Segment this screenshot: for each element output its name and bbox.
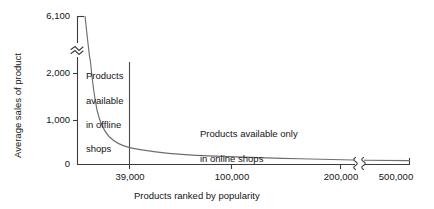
y-tick-label-6100: 6,100 (18, 10, 70, 22)
annotation-online-line-2: in online shops (200, 153, 298, 165)
annotation-offline-line-4: shops (86, 143, 124, 155)
y-tick-label-0: 0 (18, 158, 70, 170)
annotation-offline-line-2: available (86, 95, 124, 107)
x-tick-label-500000: 500,000 (358, 171, 434, 183)
long-tail-chart: 6,100 2,000 1,000 0 39,000 100,000 200,0… (0, 0, 434, 209)
annotation-online-line-1: Products available only (200, 128, 298, 140)
x-axis-title: Products ranked by popularity (134, 190, 260, 202)
x-axis-break-icon (354, 158, 366, 170)
y-tick-label-2000: 2,000 (18, 67, 70, 79)
annotation-offline-line-3: in offline (86, 119, 124, 131)
annotation-offline-shops: Products available in offline shops (86, 58, 124, 168)
annotation-online-shops: Products available only in online shops (200, 116, 298, 177)
y-axis-break-icon (71, 47, 83, 55)
y-tick-label-1000: 1,000 (18, 114, 70, 126)
annotation-offline-line-1: Products (86, 70, 124, 82)
x-tick-label-39000: 39,000 (95, 171, 165, 183)
y-axis-title: Average sales of product (12, 53, 24, 158)
